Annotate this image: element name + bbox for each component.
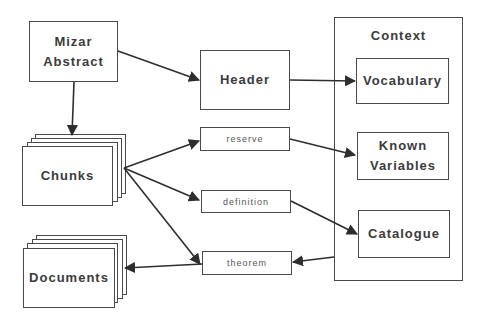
chunks-label: Chunks — [41, 166, 95, 186]
definition-node: definition — [201, 190, 291, 213]
vocabulary-label: Vocabulary — [363, 71, 442, 91]
edge-theorem-to-documents — [125, 264, 202, 268]
edge-chunks-to-definition — [124, 168, 199, 200]
edge-mizar-to-chunks — [72, 82, 74, 135]
catalogue-label: Catalogue — [368, 224, 440, 244]
theorem-label: theorem — [227, 258, 267, 268]
mizar-abstract-node: Mizar Abstract — [29, 21, 118, 82]
reserve-label: reserve — [226, 134, 263, 144]
mizar-abstract-line1: Mizar — [54, 32, 92, 52]
header-node: Header — [200, 50, 290, 110]
edge-chunks-to-theorem — [124, 168, 200, 264]
vocabulary-node: Vocabulary — [356, 58, 449, 104]
context-title: Context — [334, 26, 463, 46]
catalogue-node: Catalogue — [358, 210, 450, 258]
documents-label: Documents — [29, 268, 109, 288]
edge-chunks-to-reserve — [124, 141, 199, 168]
known-variables-line1: Known — [379, 136, 427, 156]
definition-label: definition — [223, 197, 269, 207]
edge-mizar-to-header — [118, 51, 199, 80]
reserve-node: reserve — [200, 127, 290, 151]
documents-node: Documents — [23, 248, 115, 308]
header-label: Header — [220, 70, 270, 90]
theorem-node: theorem — [202, 251, 292, 275]
chunks-node: Chunks — [22, 146, 113, 206]
known-variables-line2: Variables — [370, 156, 436, 176]
edge-context-to-theorem — [293, 257, 334, 262]
mizar-abstract-line2: Abstract — [43, 52, 104, 72]
known-variables-node: Known Variables — [357, 132, 449, 180]
